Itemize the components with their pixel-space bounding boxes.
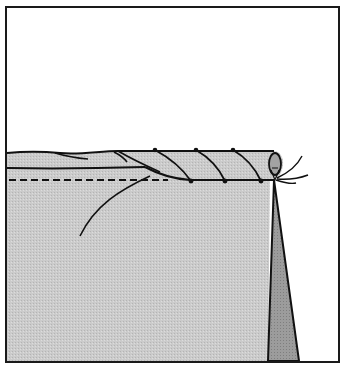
rolled-hem-illustration [0, 0, 344, 378]
fabric-panel [7, 180, 270, 361]
